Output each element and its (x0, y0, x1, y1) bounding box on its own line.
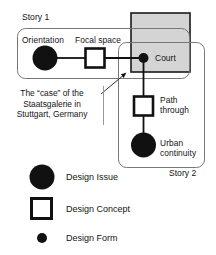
case-caption: The “case” of the Staatsgalerie in Stutt… (0, 88, 104, 120)
node-path-through-square (134, 97, 153, 116)
node-label-path-through-line1: Path (160, 95, 178, 105)
node-focal-space-square (86, 49, 105, 68)
node-label-path-through-line2: through (160, 105, 189, 115)
story1-label: Story 1 (22, 12, 49, 22)
node-label-urban-continuity-line2: continuity (160, 148, 196, 158)
story2-label: Story 2 (169, 168, 196, 178)
legend-label-design-form: Design Form (66, 233, 118, 243)
node-label-court: Court (155, 53, 176, 63)
case-caption-line-1: The “case” of the (0, 88, 104, 99)
node-label-orientation: Orientation (22, 35, 64, 45)
legend-label-design-issue: Design Issue (66, 172, 118, 182)
node-urban-continuity-circle (131, 133, 156, 158)
node-court-dot (139, 53, 149, 63)
case-caption-line-2: Staatsgalerie in (0, 99, 104, 110)
caption-leader-line (101, 73, 126, 94)
legend-glyph-design-concept (32, 199, 52, 219)
node-label-focal-space: Focal space (75, 35, 121, 45)
legend-glyph-design-issue (30, 165, 55, 190)
node-orientation-circle (33, 46, 58, 71)
node-label-urban-continuity-line1: Urban (160, 138, 183, 148)
case-caption-line-3: Stuttgart, Germany (0, 109, 104, 120)
legend-glyph-design-form (37, 233, 47, 243)
legend-label-design-concept: Design Concept (66, 204, 130, 214)
diagram-canvas: Story 1 Story 2 Orientation Focal space … (0, 0, 216, 255)
